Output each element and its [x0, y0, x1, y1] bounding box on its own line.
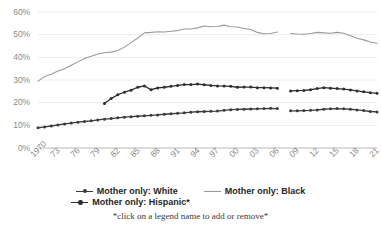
series-point-2 — [110, 97, 113, 100]
series-point-0 — [189, 111, 192, 114]
legend-row-secondary: Mother only: Hispanic* — [0, 197, 381, 207]
series-point-0 — [336, 107, 339, 110]
series-point-2 — [150, 88, 153, 91]
series-point-0 — [203, 110, 206, 113]
series-point-0 — [183, 111, 186, 114]
series-point-0 — [123, 116, 126, 119]
series-point-2 — [116, 93, 119, 96]
y-tick-label: 40% — [0, 52, 30, 62]
chart-svg — [0, 0, 381, 160]
series-point-2 — [269, 86, 272, 89]
series-point-2 — [216, 84, 219, 87]
legend-marker-white-icon — [76, 187, 93, 196]
series-point-2 — [243, 86, 246, 89]
series-point-2 — [163, 86, 166, 89]
series-point-2 — [276, 87, 279, 90]
series-point-2 — [302, 89, 305, 92]
series-point-0 — [70, 122, 73, 125]
series-point-0 — [76, 121, 79, 124]
series-point-2 — [176, 84, 179, 87]
series-line-1 — [291, 32, 377, 43]
series-point-2 — [229, 85, 232, 88]
series-point-2 — [103, 102, 106, 105]
legend-label-white: Mother only: White — [97, 186, 178, 196]
series-point-0 — [316, 108, 319, 111]
series-point-2 — [189, 83, 192, 86]
series-point-2 — [322, 86, 325, 89]
series-point-2 — [169, 85, 172, 88]
series-point-0 — [376, 110, 379, 113]
series-point-2 — [342, 88, 345, 91]
series-point-0 — [83, 120, 86, 123]
y-tick-label: 60% — [0, 7, 30, 17]
series-point-2 — [316, 87, 319, 90]
series-point-0 — [256, 107, 259, 110]
series-point-0 — [103, 118, 106, 121]
series-point-2 — [336, 87, 339, 90]
series-point-0 — [63, 122, 66, 125]
y-tick-label: 50% — [0, 29, 30, 39]
series-point-0 — [130, 115, 133, 118]
series-point-0 — [50, 125, 53, 128]
series-point-0 — [229, 108, 232, 111]
series-point-2 — [249, 86, 252, 89]
series-point-0 — [150, 114, 153, 117]
series-point-2 — [209, 84, 212, 87]
series-point-0 — [116, 116, 119, 119]
series-point-2 — [296, 89, 299, 92]
legend-help-note: *click on a legend name to add or remove… — [0, 211, 381, 221]
series-point-2 — [196, 83, 199, 86]
y-tick-label: 30% — [0, 75, 30, 85]
series-point-2 — [376, 92, 379, 95]
legend-item-mother-only-hispanic[interactable]: Mother only: Hispanic* — [71, 197, 190, 207]
series-point-0 — [243, 108, 246, 111]
series-point-2 — [362, 90, 365, 93]
legend-item-mother-only-black[interactable]: Mother only: Black — [204, 186, 306, 196]
series-point-2 — [356, 89, 359, 92]
y-tick-label: 10% — [0, 120, 30, 130]
series-point-0 — [322, 108, 325, 111]
series-point-2 — [223, 85, 226, 88]
series-point-0 — [216, 110, 219, 113]
series-point-2 — [130, 89, 133, 92]
series-point-0 — [37, 126, 40, 129]
y-tick-label: 20% — [0, 97, 30, 107]
series-point-0 — [249, 108, 252, 111]
series-point-2 — [156, 86, 159, 89]
series-point-0 — [110, 117, 113, 120]
legend-label-hispanic: Mother only: Hispanic* — [92, 197, 190, 207]
series-point-2 — [289, 89, 292, 92]
legend-label-black: Mother only: Black — [225, 186, 306, 196]
series-point-0 — [169, 112, 172, 115]
legend-item-mother-only-white[interactable]: Mother only: White — [76, 186, 178, 196]
series-point-0 — [296, 109, 299, 112]
series-point-2 — [349, 88, 352, 91]
y-tick-label: 0% — [0, 143, 30, 153]
series-point-2 — [136, 86, 139, 89]
series-point-2 — [263, 86, 266, 89]
series-point-0 — [209, 110, 212, 113]
series-point-0 — [269, 107, 272, 110]
legend-row-primary: Mother only: White Mother only: Black — [0, 186, 381, 196]
series-point-2 — [329, 87, 332, 90]
series-point-2 — [256, 86, 259, 89]
series-point-0 — [143, 114, 146, 117]
series-point-0 — [342, 107, 345, 110]
series-point-0 — [276, 107, 279, 110]
series-point-2 — [309, 88, 312, 91]
series-point-0 — [289, 109, 292, 112]
series-point-0 — [156, 113, 159, 116]
legend-marker-black-icon — [204, 187, 221, 196]
series-point-0 — [329, 107, 332, 110]
series-point-0 — [236, 108, 239, 111]
series-point-0 — [309, 109, 312, 112]
series-point-2 — [143, 84, 146, 87]
chart-legend: Mother only: White Mother only: Black Mo… — [0, 186, 381, 221]
series-point-0 — [263, 107, 266, 110]
legend-marker-hispanic-icon — [71, 198, 88, 207]
series-point-0 — [223, 109, 226, 112]
series-point-0 — [136, 115, 139, 118]
series-point-0 — [96, 118, 99, 121]
series-point-0 — [43, 125, 46, 128]
series-point-0 — [302, 109, 305, 112]
